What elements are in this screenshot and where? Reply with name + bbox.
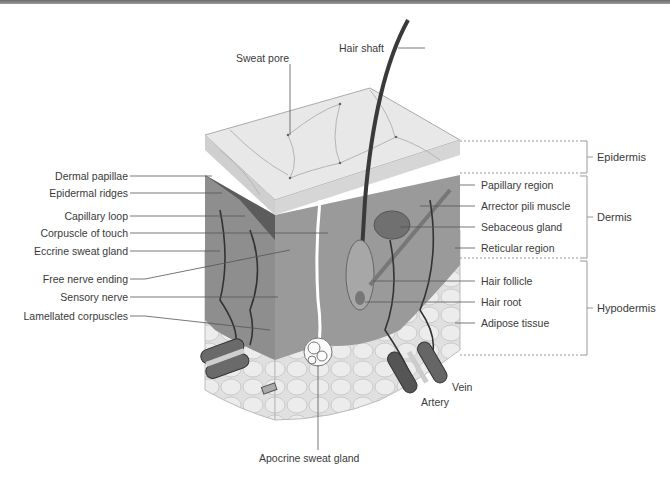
hair-root — [355, 291, 365, 305]
label-adipose-tissue: Adipose tissue — [481, 317, 549, 329]
label-artery: Artery — [421, 396, 449, 408]
label-vein: Vein — [452, 381, 472, 393]
sebaceous-gland — [374, 211, 410, 239]
label-apocrine-sweat-gland: Apocrine sweat gland — [259, 452, 359, 464]
apocrine-gland — [304, 338, 332, 366]
label-papillary-region: Papillary region — [481, 179, 553, 191]
label-hair-root: Hair root — [481, 296, 521, 308]
label-epidermis: Epidermis — [597, 151, 646, 163]
label-dermal-papillae: Dermal papillae — [55, 170, 128, 182]
label-eccrine-sweat-gland: Eccrine sweat gland — [34, 245, 128, 257]
label-capillary-loop: Capillary loop — [64, 210, 128, 222]
label-arrector-pili-muscle: Arrector pili muscle — [481, 200, 570, 212]
label-lamellated-corpuscles: Lamellated corpuscles — [24, 310, 128, 322]
label-hair-shaft: Hair shaft — [339, 42, 384, 54]
label-sweat-pore: Sweat pore — [236, 52, 289, 64]
label-free-nerve-ending: Free nerve ending — [43, 273, 128, 285]
label-hypodermis: Hypodermis — [597, 302, 656, 314]
label-hair-follicle: Hair follicle — [481, 275, 532, 287]
label-dermis: Dermis — [597, 211, 632, 223]
label-corpuscle-of-touch: Corpuscle of touch — [40, 227, 128, 239]
label-sebaceous-gland: Sebaceous gland — [481, 221, 562, 233]
label-sensory-nerve: Sensory nerve — [60, 291, 128, 303]
label-reticular-region: Reticular region — [481, 242, 555, 254]
skin-diagram — [0, 0, 670, 479]
label-epidermal-ridges: Epidermal ridges — [49, 187, 128, 199]
